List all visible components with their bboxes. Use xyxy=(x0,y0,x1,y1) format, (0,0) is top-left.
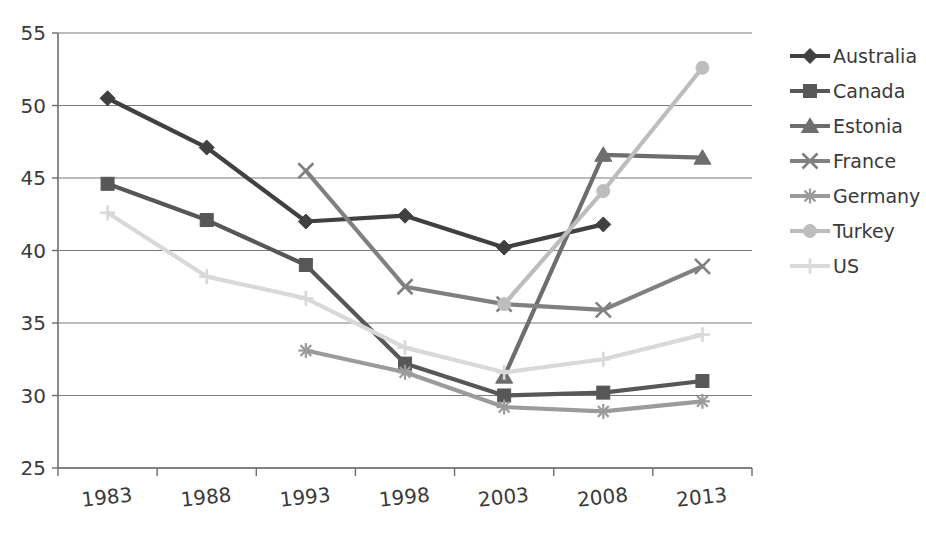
legend-marker-asterisk-icon xyxy=(789,185,831,207)
legend-swatch-graphic xyxy=(789,150,831,172)
x-axis-tick-label: 2003 xyxy=(477,482,530,511)
legend-swatch-graphic xyxy=(789,80,831,102)
y-axis-tick-labels: 25303540455055 xyxy=(21,21,46,480)
legend-item-canada[interactable]: Canada xyxy=(789,73,926,108)
series-us xyxy=(100,205,710,379)
legend-swatch-graphic xyxy=(789,185,831,207)
legend-marker-diamond-icon xyxy=(789,45,831,67)
data-point-marker xyxy=(596,217,611,232)
legend-label: France xyxy=(831,150,896,172)
series-turkey xyxy=(498,61,709,310)
chart-plot-area: 25303540455055 1983198819931998200320082… xyxy=(0,0,926,543)
legend-item-us[interactable]: US xyxy=(789,248,926,283)
y-axis-tick-label: 30 xyxy=(21,384,46,408)
series-line xyxy=(108,98,604,247)
data-point-marker xyxy=(298,343,313,358)
x-axis-tick-label: 1993 xyxy=(279,482,332,511)
legend-marker-circle-icon xyxy=(789,220,831,242)
data-point-marker xyxy=(596,352,611,367)
data-series xyxy=(100,61,711,419)
data-point-marker xyxy=(696,375,709,388)
data-point-marker xyxy=(695,259,710,274)
legend-marker-triangle-icon xyxy=(789,115,831,137)
data-point-marker xyxy=(298,291,313,306)
x-axis-tick-label: 1998 xyxy=(378,482,431,511)
legend-swatch-graphic xyxy=(789,255,831,277)
legend-swatch-marker xyxy=(803,48,818,63)
series-estonia xyxy=(496,147,711,383)
legend-swatch-marker xyxy=(804,84,817,97)
legend-label: Turkey xyxy=(831,220,895,242)
data-point-marker xyxy=(695,327,710,342)
legend-label: Australia xyxy=(831,45,917,67)
legend-swatch-marker xyxy=(803,188,818,203)
legend-marker-square-icon xyxy=(789,80,831,102)
legend-label: US xyxy=(831,255,859,277)
x-axis-tick-label: 2013 xyxy=(675,482,728,511)
data-point-marker xyxy=(298,163,313,178)
legend-item-germany[interactable]: Germany xyxy=(789,178,926,213)
data-point-marker xyxy=(695,394,710,409)
data-point-marker xyxy=(597,185,610,198)
x-axis-tick-labels: 1983198819931998200320082013 xyxy=(80,482,728,511)
legend-swatch-marker xyxy=(804,224,817,237)
data-point-marker xyxy=(101,177,114,190)
legend-label: Germany xyxy=(831,185,920,207)
data-point-marker xyxy=(398,365,413,380)
data-point-marker xyxy=(597,386,610,399)
legend-swatch-graphic xyxy=(789,45,831,67)
gridlines xyxy=(58,33,752,468)
data-point-marker xyxy=(398,340,413,355)
legend-swatch-graphic xyxy=(789,115,831,137)
legend-item-estonia[interactable]: Estonia xyxy=(789,108,926,143)
legend-marker-plus-icon xyxy=(789,255,831,277)
chart-legend: Australia Canada Estonia France Germany … xyxy=(789,38,926,283)
legend-swatch-marker xyxy=(803,258,818,273)
data-point-marker xyxy=(497,240,512,255)
data-point-marker xyxy=(200,214,213,227)
y-axis-tick-label: 35 xyxy=(21,311,46,335)
data-point-marker xyxy=(696,61,709,74)
y-axis-tick-label: 50 xyxy=(21,94,46,118)
x-axis-tick-label: 1983 xyxy=(80,482,133,511)
legend-label: Canada xyxy=(831,80,905,102)
data-point-marker xyxy=(498,298,511,311)
legend-item-france[interactable]: France xyxy=(789,143,926,178)
legend-marker-cross-x-icon xyxy=(789,150,831,172)
data-point-marker xyxy=(497,400,512,415)
legend-label: Estonia xyxy=(831,115,903,137)
data-point-marker xyxy=(596,404,611,419)
legend-item-australia[interactable]: Australia xyxy=(789,38,926,73)
y-axis-tick-label: 25 xyxy=(21,456,46,480)
legend-swatch-graphic xyxy=(789,220,831,242)
data-point-marker xyxy=(299,259,312,272)
x-axis-tick-label: 1988 xyxy=(179,482,232,511)
line-chart: 25303540455055 1983198819931998200320082… xyxy=(0,0,926,543)
data-point-marker xyxy=(398,208,413,223)
data-point-marker xyxy=(100,91,115,106)
y-axis-tick-label: 40 xyxy=(21,239,46,263)
y-axis-tick-label: 55 xyxy=(21,21,46,45)
legend-item-turkey[interactable]: Turkey xyxy=(789,213,926,248)
axis-tick-marks xyxy=(52,33,752,476)
y-axis-tick-label: 45 xyxy=(21,166,46,190)
x-axis-tick-label: 2008 xyxy=(576,482,629,511)
